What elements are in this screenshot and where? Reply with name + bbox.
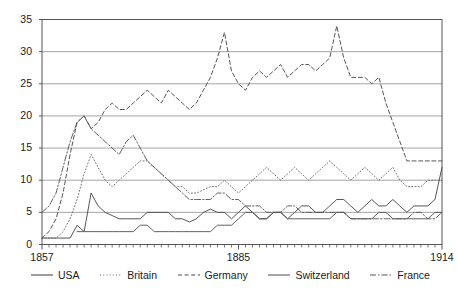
legend-label: USA bbox=[58, 269, 80, 281]
y-tick-label: 0 bbox=[6, 238, 32, 250]
series-line-france bbox=[42, 116, 442, 219]
series-line-britain bbox=[42, 155, 442, 239]
legend-swatch-solid bbox=[267, 270, 291, 280]
legend-item-usa[interactable]: USA bbox=[30, 269, 80, 281]
y-tick-label: 30 bbox=[6, 45, 32, 57]
legend-item-britain[interactable]: Britain bbox=[99, 269, 157, 281]
series-line-switzerland bbox=[77, 212, 442, 231]
y-tick-label: 20 bbox=[6, 109, 32, 121]
legend-swatch-dotted bbox=[99, 270, 123, 280]
legend-item-switzerland[interactable]: Switzerland bbox=[267, 269, 349, 281]
legend-label: Germany bbox=[205, 269, 248, 281]
y-tick-label: 5 bbox=[6, 205, 32, 217]
x-tick-label: 1914 bbox=[412, 251, 458, 263]
legend-swatch-solid bbox=[30, 270, 54, 280]
plot-frame bbox=[42, 20, 442, 245]
y-tick-label: 25 bbox=[6, 77, 32, 89]
y-tick-label: 35 bbox=[6, 13, 32, 25]
legend-swatch-dashdot bbox=[369, 270, 393, 280]
legend-swatch-dashed bbox=[177, 270, 201, 280]
y-tick-label: 10 bbox=[6, 173, 32, 185]
gridlines bbox=[42, 20, 442, 213]
y-tick-label: 15 bbox=[6, 141, 32, 153]
legend-label: Switzerland bbox=[295, 269, 349, 281]
legend-label: Britain bbox=[127, 269, 157, 281]
x-tick-label: 1857 bbox=[12, 251, 72, 263]
legend-item-france[interactable]: France bbox=[369, 269, 430, 281]
x-axis-ticks bbox=[42, 245, 442, 250]
data-series-group bbox=[42, 26, 442, 238]
chart-legend: USABritainGermanySwitzerlandFrance bbox=[30, 266, 430, 284]
legend-label: France bbox=[397, 269, 430, 281]
legend-item-germany[interactable]: Germany bbox=[177, 269, 248, 281]
x-tick-label: 1885 bbox=[208, 251, 268, 263]
